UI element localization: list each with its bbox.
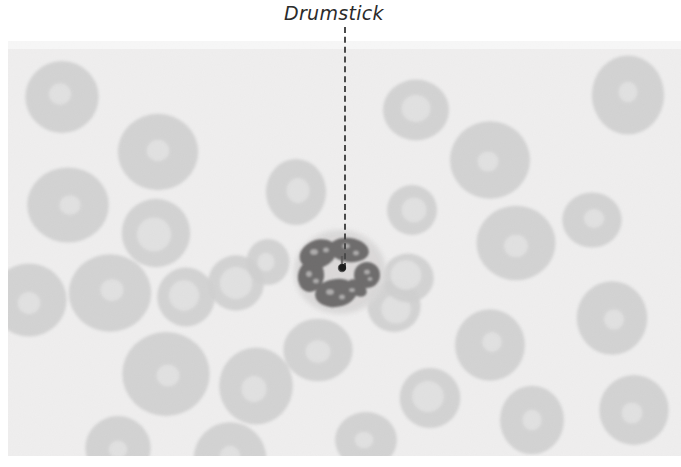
- figure-photomicrograph: Drumstick: [0, 0, 681, 467]
- annotation-label-drumstick: Drumstick: [284, 2, 384, 24]
- leader-endpoint-dot: [339, 264, 346, 271]
- leader-line: [344, 27, 346, 269]
